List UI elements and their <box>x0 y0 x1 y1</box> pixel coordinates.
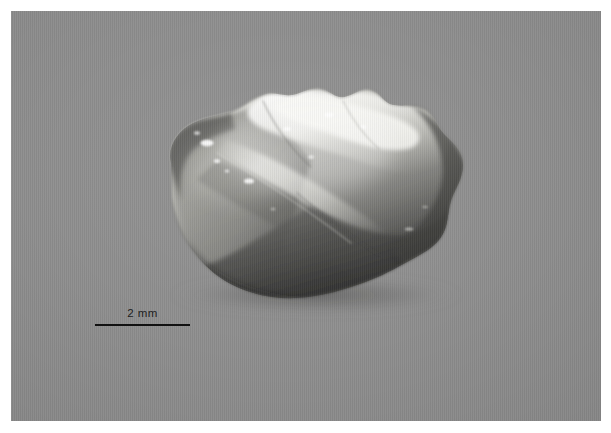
scale-bar-label: 2 mm <box>95 306 190 320</box>
specimen-illustration <box>11 11 601 421</box>
figure-plate: 2 mm <box>0 0 611 433</box>
photograph-canvas: 2 mm <box>11 11 601 421</box>
specimen-quartz-flake <box>11 11 601 421</box>
scale-bar-line <box>95 324 190 326</box>
scale-bar: 2 mm <box>95 306 215 326</box>
